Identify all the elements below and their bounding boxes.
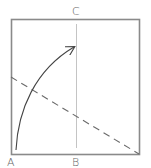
paper-square: [12, 20, 140, 155]
dashed-fold-line: [11, 77, 139, 154]
label-a: A: [7, 156, 15, 168]
folding-diagram: C A B: [0, 0, 151, 168]
label-b: B: [72, 156, 79, 168]
label-c: C: [72, 5, 80, 18]
curved-arrow-icon: [16, 47, 74, 150]
